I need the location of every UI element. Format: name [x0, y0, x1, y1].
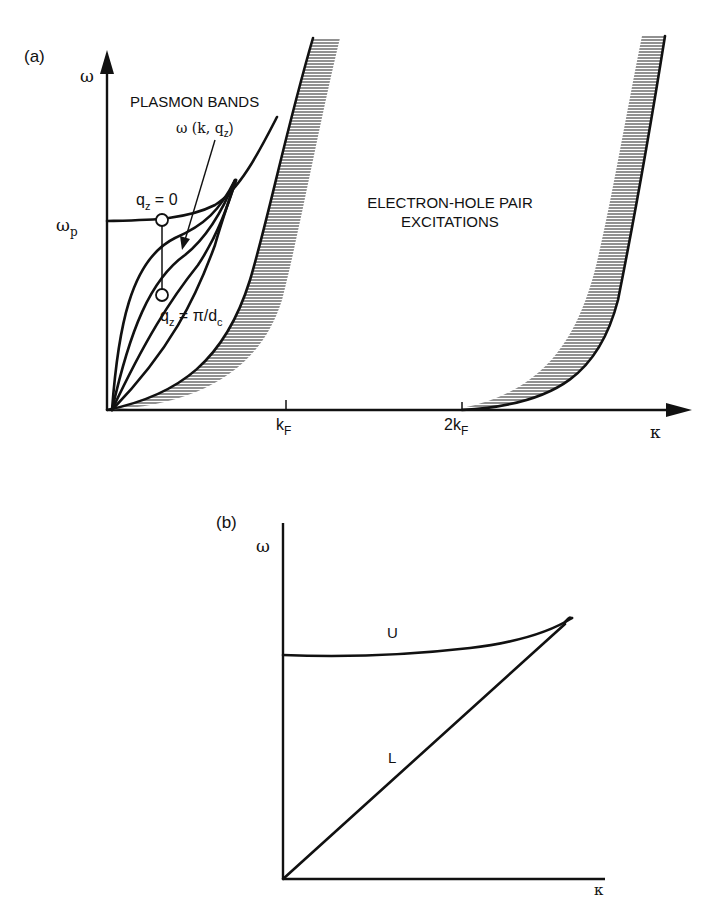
eh-label-line2: EXCITATIONS	[401, 213, 499, 230]
x-axis-label: κ	[650, 422, 661, 442]
eh-label-line1: ELECTRON-HOLE PAIR	[367, 194, 533, 211]
lower-branch-label: L	[388, 749, 396, 766]
upper-branch-label: U	[387, 624, 398, 641]
qz0-marker	[156, 214, 168, 226]
dispersion-label: ω (k, qz)	[176, 120, 233, 139]
panel-b-label: (b)	[216, 513, 237, 532]
panel-a-label: (a)	[24, 47, 45, 66]
y-axis-arrow-icon	[100, 50, 114, 74]
b-y-axis-label: ω	[256, 536, 270, 556]
panel-b: (b) ω κ U L	[216, 513, 605, 899]
tick-2kf-label: 2kF	[444, 416, 468, 438]
qzpi-label: qz = π/dc	[160, 307, 223, 328]
pointer-arrowhead-icon	[180, 236, 190, 250]
upper-branch-curve	[283, 618, 572, 656]
omega-p-label: ωp	[56, 215, 78, 239]
plasmon-bands-title: PLASMON BANDS	[130, 93, 259, 110]
b-x-axis-label: κ	[594, 881, 604, 899]
x-axis-arrow-icon	[666, 403, 692, 417]
y-axis-label: ω	[80, 66, 94, 86]
tick-kf-label: kF	[276, 416, 291, 438]
qzpi-marker	[156, 289, 168, 301]
lower-branch-line	[283, 624, 565, 879]
plasmon-bands	[107, 117, 277, 410]
panel-a: (a) ω κ kF 2kF ωp	[24, 36, 692, 442]
qz0-label: qz = 0	[136, 191, 178, 212]
figure-canvas: (a) ω κ kF 2kF ωp	[0, 0, 705, 915]
